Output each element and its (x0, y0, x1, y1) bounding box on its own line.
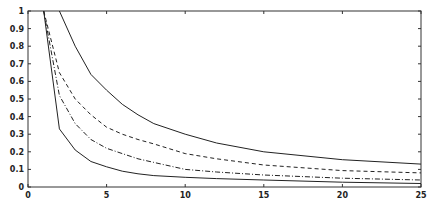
y-tick-label: 0.7 (10, 60, 24, 69)
y-tick-label: 0.3 (10, 130, 24, 139)
series-line-dashed (44, 11, 421, 173)
series-line-solid-upper (59, 11, 421, 164)
y-tick-label: 0.6 (10, 77, 25, 86)
x-tick-label: 20 (337, 191, 349, 200)
x-tick-label: 25 (415, 191, 427, 200)
x-tick-label: 0 (25, 191, 31, 200)
y-tick-label: 0.8 (10, 42, 25, 51)
y-tick-label: 0.1 (10, 165, 25, 174)
y-axis-ticks: 00.10.20.30.40.50.60.70.80.91 (10, 7, 421, 192)
x-tick-label: 15 (258, 191, 270, 200)
y-tick-label: 0.9 (10, 25, 25, 34)
y-tick-label: 1 (18, 7, 24, 16)
x-tick-label: 5 (104, 191, 110, 200)
y-tick-label: 0.4 (10, 113, 25, 122)
x-tick-label: 10 (180, 191, 192, 200)
data-series (44, 11, 421, 184)
y-tick-label: 0 (18, 183, 24, 192)
y-tick-label: 0.5 (10, 95, 25, 104)
y-tick-label: 0.2 (10, 148, 24, 157)
series-line-dash-dot (44, 11, 421, 180)
series-line-solid-lower (44, 11, 421, 184)
line-chart: 0510152025 00.10.20.30.40.50.60.70.80.91 (0, 0, 436, 210)
